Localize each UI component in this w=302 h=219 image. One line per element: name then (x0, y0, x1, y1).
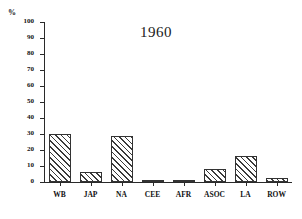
y-axis-tick-label: 30 (27, 129, 34, 138)
x-axis-tick (91, 183, 92, 186)
y-axis-tick-label: 80 (27, 49, 34, 58)
x-axis-tick-label: LA (240, 190, 250, 199)
chart-figure: % 1960 0102030405060708090100 WBJAPNACEE… (0, 0, 302, 219)
x-axis-tick-label: AFR (176, 190, 191, 199)
y-axis-tick: 90 (40, 38, 44, 39)
y-axis-tick: 50 (40, 102, 44, 103)
y-axis-tick: 100 (40, 22, 44, 23)
y-axis-tick-label: 10 (27, 161, 34, 170)
x-axis-tick (215, 183, 216, 186)
y-axis-tick-label: 60 (27, 81, 34, 90)
x-axis-tick-label: JAP (84, 190, 98, 199)
x-axis-tick (184, 183, 185, 186)
x-axis-tick-label: NA (116, 190, 127, 199)
x-axis-tick-label: ROW (267, 190, 286, 199)
y-axis-tick-label: 100 (24, 17, 35, 26)
bar (142, 180, 164, 182)
y-axis-tick: 40 (40, 118, 44, 119)
bar (266, 178, 288, 182)
y-axis-tick-label: 90 (27, 33, 34, 42)
y-axis-line (44, 22, 45, 183)
y-axis-tick-label: 0 (31, 177, 35, 186)
x-axis-tick (277, 183, 278, 186)
y-axis-tick: 10 (40, 166, 44, 167)
y-axis-tick: 20 (40, 150, 44, 151)
x-axis-tick-label: WB (53, 190, 66, 199)
x-axis-tick (60, 183, 61, 186)
y-axis-tick-label: 40 (27, 113, 34, 122)
bar (235, 156, 257, 182)
y-axis-tick: 70 (40, 70, 44, 71)
x-axis-tick (153, 183, 154, 186)
y-axis-tick-label: 20 (27, 145, 34, 154)
bar (173, 180, 195, 182)
y-axis-tick: 0 (40, 182, 44, 183)
x-axis-line (44, 182, 292, 183)
x-axis-tick-label: ASOC (204, 190, 225, 199)
bar (49, 134, 71, 182)
bar (80, 172, 102, 182)
plot-area: 0102030405060708090100 WBJAPNACEEAFRASOC… (44, 22, 292, 183)
bar (204, 169, 226, 182)
x-axis-tick (122, 183, 123, 186)
y-axis-unit-label: % (8, 9, 16, 17)
y-axis-tick: 60 (40, 86, 44, 87)
y-axis-tick-label: 50 (27, 97, 34, 106)
y-axis-tick-label: 70 (27, 65, 34, 74)
y-axis-tick: 80 (40, 54, 44, 55)
bar (111, 136, 133, 182)
x-axis-tick-label: CEE (145, 190, 160, 199)
y-axis-tick: 30 (40, 134, 44, 135)
x-axis-tick (246, 183, 247, 186)
